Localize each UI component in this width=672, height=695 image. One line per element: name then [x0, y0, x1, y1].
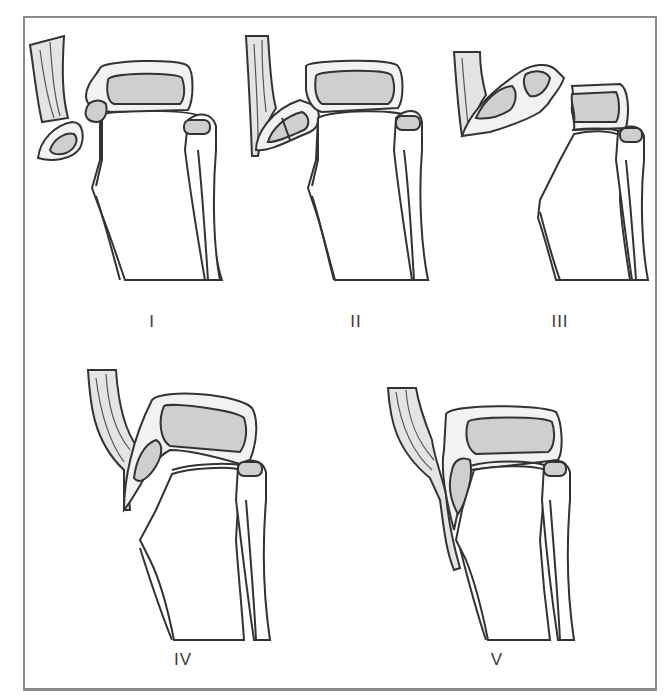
panel-label-type-4: IV — [174, 651, 192, 668]
panel-label-type-5: V — [491, 651, 503, 668]
panel-type-1-drawing — [30, 36, 222, 280]
panel-type-5-drawing — [388, 388, 574, 640]
panel-type-3-drawing — [454, 52, 648, 280]
panel-label-type-1: I — [149, 313, 155, 330]
fracture-diagram — [0, 0, 672, 695]
panel-type-4-drawing — [88, 370, 270, 640]
panel-type-2-drawing — [246, 36, 428, 280]
panel-label-type-3: III — [551, 313, 568, 330]
panel-label-type-2: II — [350, 313, 361, 330]
